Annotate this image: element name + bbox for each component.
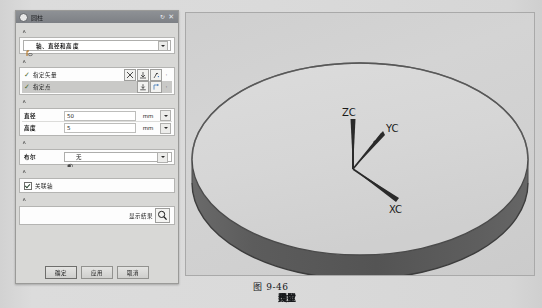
chevron-down-icon-boolean[interactable] [157, 152, 168, 163]
boolean-select[interactable]: 无 [64, 152, 172, 162]
dialog-title-bar: 圆柱 ↻ ✕ [16, 11, 178, 23]
ok-button[interactable]: 确定 [45, 266, 77, 279]
specify-point-label: 指定点 [33, 83, 51, 91]
dialog-footer: 确定 应用 取消 [19, 266, 175, 280]
disc-cylinder-model: ZC YC XC [186, 13, 534, 275]
magnifier-icon[interactable] [155, 208, 170, 223]
section-header-dimensions[interactable]: 尺寸 ∧ [19, 97, 175, 106]
point-constructor-icon[interactable] [150, 81, 162, 93]
show-result-label: 显示结果 [129, 212, 153, 220]
axis-diameter-height-icon [26, 42, 33, 49]
chevron-up-icon-settings: ∧ [22, 169, 26, 175]
specify-point-row[interactable]: ✓ 指定点 · [22, 81, 172, 93]
chevron-up-icon-axis: ∧ [22, 58, 26, 64]
point-more-icon[interactable]: · [163, 82, 170, 92]
cancel-button[interactable]: 取消 [117, 266, 149, 279]
cad-3d-viewport[interactable]: ZC YC XC [185, 12, 535, 276]
section-header-axis[interactable]: 轴 ∧ [19, 56, 175, 65]
boolean-panel: 布尔 无 [19, 149, 175, 165]
chevron-up-icon-dimensions: ∧ [22, 99, 26, 105]
vector-cross-icon[interactable] [124, 69, 136, 81]
height-label: 高度 [22, 124, 64, 132]
dialog-body: 类型 ∧ 轴、直径和高度 轴 ∧ ✓ 指定矢量 [16, 23, 178, 283]
chevron-down-icon-diameter[interactable] [160, 110, 171, 121]
specify-vector-row[interactable]: ✓ 指定矢量 · [22, 69, 172, 81]
chevron-up-icon-type: ∧ [22, 28, 26, 34]
vector-more-icon[interactable]: · [163, 70, 170, 80]
settings-panel: 关联轴 [19, 178, 175, 193]
chevron-down-icon-type-select[interactable] [158, 41, 168, 51]
height-unit: mm [136, 125, 160, 131]
associative-axis-row[interactable]: 关联轴 [22, 180, 172, 191]
boolean-label: 布尔 [22, 153, 64, 161]
axis-panel: ✓ 指定矢量 · ✓ 指定点 [19, 67, 175, 95]
check-icon-specify-point: ✓ [24, 84, 30, 91]
chevron-up-icon-boolean: ∧ [22, 140, 26, 146]
height-row: 高度 5 mm [22, 122, 172, 134]
associative-axis-checkbox[interactable] [24, 182, 32, 190]
associative-axis-label: 关联轴 [35, 182, 53, 190]
section-header-preview[interactable]: 预览 ∧ [19, 195, 175, 204]
section-header-settings[interactable]: 设置 ∧ [19, 167, 175, 176]
boolean-row: 布尔 无 [22, 151, 172, 163]
figure-caption: 图 9-46 [0, 280, 542, 293]
diameter-label: 直径 [22, 112, 64, 120]
boolean-value: 无 [76, 153, 82, 161]
figure-caption-text: 图 9-46 [253, 282, 288, 292]
section-header-type[interactable]: 类型 ∧ [19, 26, 175, 35]
type-select[interactable]: 轴、直径和高度 [23, 40, 171, 51]
dimensions-panel: 直径 50 mm 高度 5 mm [19, 108, 175, 136]
preview-panel: 显示结果 [19, 206, 175, 225]
show-result-row: 显示结果 [22, 207, 172, 224]
close-icon[interactable]: ✕ [168, 14, 174, 21]
triad-label-x: XC [389, 204, 402, 215]
check-icon-specify-vector: ✓ [24, 72, 30, 79]
dialog-title: 圆柱 [31, 13, 44, 22]
diameter-unit: mm [136, 113, 160, 119]
cylinder-icon [19, 13, 28, 22]
specify-vector-label: 指定矢量 [33, 71, 57, 79]
type-select-value: 轴、直径和高度 [36, 42, 79, 50]
diameter-row: 直径 50 mm [22, 110, 172, 122]
chevron-up-icon-preview: ∧ [22, 197, 26, 203]
vector-snap-icon[interactable] [137, 69, 149, 81]
vector-constructor-icon[interactable] [150, 69, 162, 81]
height-input[interactable]: 5 [64, 123, 136, 133]
diameter-input[interactable]: 50 [64, 111, 136, 121]
apply-button[interactable]: 应用 [81, 266, 113, 279]
cylinder-dialog: 圆柱 ↻ ✕ 类型 ∧ 轴、直径和高度 轴 ∧ ✓ [15, 10, 179, 284]
point-snap-icon[interactable] [137, 81, 149, 93]
section-header-boolean[interactable]: 布尔 ∧ [19, 138, 175, 147]
triad-label-z: ZC [342, 107, 356, 118]
type-panel: 轴、直径和高度 [19, 37, 175, 54]
reset-icon[interactable]: ↻ [160, 14, 165, 20]
chevron-down-icon-height[interactable] [160, 123, 171, 134]
triad-label-y: YC [385, 123, 399, 134]
boolean-none-icon [67, 154, 73, 160]
